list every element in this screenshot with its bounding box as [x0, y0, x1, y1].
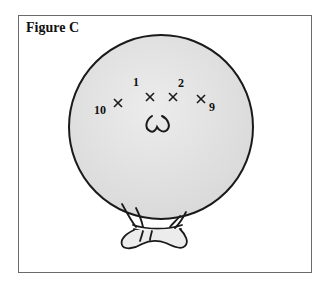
marker-label-9: 9: [209, 100, 215, 114]
marker-label-2: 2: [178, 76, 184, 90]
marker-label-1: 1: [133, 75, 139, 89]
balloon-body: [69, 35, 253, 219]
marker-label-10: 10: [94, 103, 106, 117]
balloon-illustration: 1 2 9 10: [0, 0, 331, 287]
